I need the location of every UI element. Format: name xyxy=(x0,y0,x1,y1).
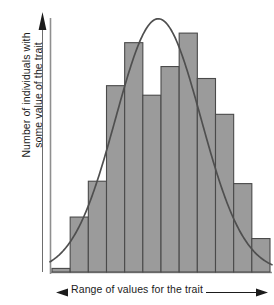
y-axis-arrow-icon xyxy=(39,12,47,272)
histogram-bar xyxy=(197,79,215,273)
histogram-bar xyxy=(143,95,161,272)
histogram-bar xyxy=(161,67,179,272)
normal-distribution-figure: Number of individuals with some value of… xyxy=(0,0,274,305)
histogram-bar xyxy=(252,239,270,272)
histogram-bar xyxy=(234,184,252,272)
histogram-bar xyxy=(52,268,70,272)
histogram-bar xyxy=(179,33,197,272)
histogram-bar xyxy=(107,86,125,272)
histogram-bar xyxy=(216,114,234,272)
histogram-bar xyxy=(88,181,106,272)
x-axis-double-arrow-icon xyxy=(56,288,268,296)
histogram-plot xyxy=(0,0,274,305)
histogram-bars xyxy=(52,33,270,272)
